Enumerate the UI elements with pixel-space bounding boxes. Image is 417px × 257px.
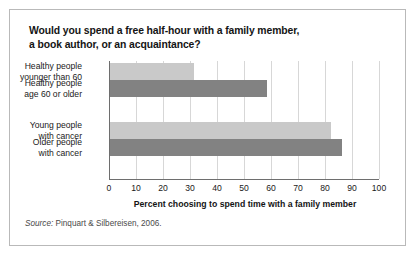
gridline-40 bbox=[217, 61, 218, 179]
category-label-healthy-older: Healthy people age 60 or older bbox=[0, 78, 82, 99]
source-label: Source: bbox=[25, 219, 53, 228]
bar-older-cancer bbox=[110, 139, 342, 156]
bar-young-cancer bbox=[110, 122, 331, 139]
source-citation: Pinquart & Silbereisen, 2006. bbox=[56, 219, 162, 228]
category-label-older-cancer: Older people with cancer bbox=[0, 137, 82, 158]
x-tick-label-30: 30 bbox=[175, 183, 205, 193]
source-note: Source: Pinquart & Silbereisen, 2006. bbox=[25, 219, 162, 228]
gridline-70 bbox=[298, 61, 299, 179]
x-axis-title: Percent choosing to spend time with a fa… bbox=[109, 199, 381, 209]
gridline-60 bbox=[271, 61, 272, 179]
bar-healthy-older bbox=[110, 80, 267, 97]
chart-figure: Would you spend a free half-hour with a … bbox=[9, 9, 406, 246]
chart-title: Would you spend a free half-hour with a … bbox=[29, 24, 369, 52]
gridline-50 bbox=[244, 61, 245, 179]
x-tick-label-90: 90 bbox=[337, 183, 367, 193]
x-tick-label-20: 20 bbox=[148, 183, 178, 193]
chart-title-line-2: a book author, or an acquaintance? bbox=[29, 38, 369, 52]
gridline-80 bbox=[325, 61, 326, 179]
x-tick-label-40: 40 bbox=[202, 183, 232, 193]
gridline-90 bbox=[352, 61, 353, 179]
plot-area bbox=[109, 61, 379, 179]
bar-healthy-younger bbox=[110, 63, 194, 80]
x-tick-label-10: 10 bbox=[121, 183, 151, 193]
x-tick-label-60: 60 bbox=[256, 183, 286, 193]
x-tick-label-100: 100 bbox=[364, 183, 394, 193]
x-tick-label-80: 80 bbox=[310, 183, 340, 193]
chart-title-line-1: Would you spend a free half-hour with a … bbox=[29, 24, 369, 38]
x-tick-label-0: 0 bbox=[94, 183, 124, 193]
x-axis-line bbox=[109, 179, 379, 180]
gridline-100 bbox=[379, 61, 380, 179]
x-tick-label-70: 70 bbox=[283, 183, 313, 193]
x-tick-label-50: 50 bbox=[229, 183, 259, 193]
